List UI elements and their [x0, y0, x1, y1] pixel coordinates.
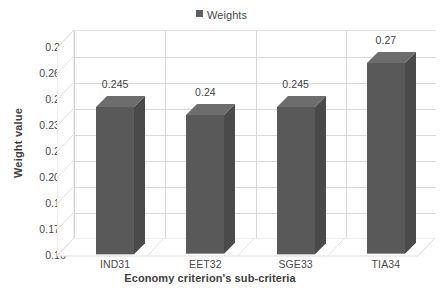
- gridline-vertical: [256, 31, 257, 239]
- left-wall-svg: [57, 30, 75, 256]
- bar-3d-faces: [96, 96, 147, 256]
- gridline-vertical: [346, 31, 347, 239]
- bar-value-label: 0.24: [174, 86, 236, 98]
- legend-swatch-icon: [196, 10, 203, 17]
- bar[interactable]: [367, 54, 405, 256]
- chart-legend: Weights: [0, 6, 443, 22]
- bar-front-face: [96, 107, 134, 254]
- bar-value-label: 0.27: [355, 34, 417, 46]
- bar-side-face: [224, 104, 235, 254]
- bar[interactable]: [277, 98, 315, 256]
- bar-3d-faces: [277, 96, 328, 256]
- bar-value-label: 0.245: [265, 78, 327, 90]
- bar-chart: Weights Weight value 0.280.2650.250.2350…: [0, 0, 443, 295]
- bar-value-label: 0.245: [84, 78, 146, 90]
- bar-side-face: [315, 96, 326, 254]
- plot-area: 0.2450.240.2450.27: [57, 30, 435, 255]
- x-axis-tick-label: EET32: [166, 258, 244, 270]
- bar-3d-faces: [186, 104, 237, 256]
- legend-label: Weights: [207, 7, 247, 23]
- x-axis-tick-label: TIA34: [347, 258, 425, 270]
- bar-front-face: [186, 115, 224, 254]
- x-axis-tick-label: SGE33: [257, 258, 335, 270]
- bar-front-face: [277, 107, 315, 254]
- left-wall-panel: [57, 30, 75, 256]
- bar-front-face: [367, 63, 405, 254]
- legend-entry-weights[interactable]: Weights: [196, 6, 247, 23]
- bar-3d-faces: [367, 52, 418, 256]
- x-axis-title: Economy criterion's sub-criteria: [60, 272, 360, 284]
- bar-side-face: [134, 96, 145, 254]
- bar[interactable]: [96, 98, 134, 256]
- x-axis-tick-label: IND31: [76, 258, 154, 270]
- bar-side-face: [405, 52, 416, 254]
- gridline-vertical: [165, 31, 166, 239]
- bar[interactable]: [186, 106, 224, 256]
